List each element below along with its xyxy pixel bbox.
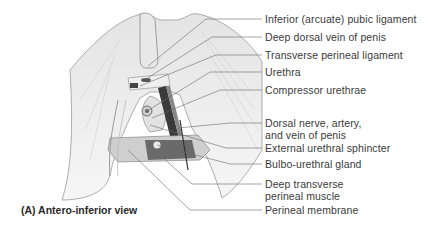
- label-compressor-urethrae: Compressor urethrae: [265, 84, 366, 96]
- label-deep-dorsal-vein: Deep dorsal vein of penis: [265, 31, 386, 43]
- label-transverse-perineal-ligament: Transverse perineal ligament: [265, 49, 403, 61]
- label-urethra: Urethra: [265, 66, 301, 78]
- label-inferior-pubic-ligament: Inferior (arcuate) pubic ligament: [265, 13, 417, 25]
- label-deep-transverse-perineal-line2: perineal muscle: [265, 190, 340, 202]
- figure-caption: (A) Antero-inferior view: [21, 204, 137, 216]
- label-dorsal-nerve-line1: Dorsal nerve, artery,: [265, 117, 361, 129]
- anatomy-figure: Inferior (arcuate) pubic ligament Deep d…: [0, 0, 438, 229]
- label-dorsal-nerve-line2: and vein of penis: [265, 129, 346, 141]
- label-bulbo-urethral-gland: Bulbo-urethral gland: [265, 158, 362, 170]
- label-deep-transverse-perineal-line1: Deep transverse: [265, 178, 344, 190]
- label-external-urethral-sphincter: External urethral sphincter: [265, 142, 390, 154]
- label-perineal-membrane: Perineal membrane: [265, 204, 358, 216]
